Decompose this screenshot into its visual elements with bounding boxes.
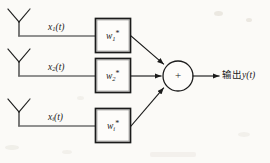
antenna-element-2 [8, 49, 30, 76]
scan-artifact [238, 132, 250, 137]
weighted-path-1 [131, 36, 164, 64]
scan-artifact [5, 145, 19, 150]
output-label: 输出y(t) [222, 70, 255, 81]
diagram-svg [0, 0, 270, 163]
signal-label-2: x2(t) [48, 63, 64, 73]
diagram-canvas [0, 0, 270, 163]
scan-artifact [246, 18, 252, 22]
antenna-element-3 [8, 99, 30, 126]
scan-artifact [77, 96, 84, 100]
scan-artifact [214, 11, 223, 16]
weight-label-3: wi* [107, 120, 119, 132]
signal-label-1: x1(t) [48, 23, 64, 33]
summing-node-symbol: + [175, 70, 181, 81]
signal-label-3: xi(t) [48, 113, 63, 123]
scan-artifact [150, 152, 196, 157]
weighted-path-3 [131, 88, 164, 126]
antenna-element-1 [8, 9, 30, 36]
weight-label-2: w2* [106, 70, 120, 82]
scan-artifact [62, 150, 72, 154]
weight-label-1: w1* [106, 30, 120, 42]
